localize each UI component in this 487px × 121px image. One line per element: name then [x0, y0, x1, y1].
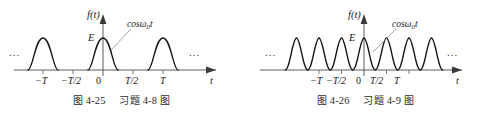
figure-right: ... ... f(t) E cosω0t −T −T/2 0 T/2 T t …	[244, 0, 487, 121]
caption-suffix: 图	[160, 95, 170, 106]
curve-label-leader	[111, 29, 131, 50]
caption-problem: 4-8	[143, 95, 158, 106]
ellipsis-left: ...	[9, 46, 20, 58]
caption-number: 4-25	[86, 95, 106, 106]
caption-suffix: 图	[404, 95, 414, 106]
y-axis-label: f(t)	[348, 9, 361, 21]
caption-label: 习题	[363, 95, 383, 106]
ellipsis-left: ...	[265, 46, 276, 58]
x-tick-label-neg-T: −T	[310, 75, 324, 86]
figure-caption-right: 图 4-26 习题 4-9 图	[244, 94, 487, 108]
x-axis	[260, 67, 462, 74]
caption-number: 4-26	[330, 95, 350, 106]
x-tick-label-zero: 0	[356, 75, 361, 86]
y-axis	[361, 14, 368, 76]
figure-sheet: ... ... f(t) E cosω0t −T −T/2 0 T/2 T t …	[0, 0, 487, 121]
curve-label-leader	[373, 29, 396, 52]
ellipsis-right: ...	[189, 46, 200, 58]
x-tick-label-T: T	[160, 75, 167, 86]
x-axis	[14, 67, 216, 74]
x-tick-label-zero: 0	[96, 75, 101, 86]
x-axis-label: t	[456, 75, 459, 86]
amplitude-label: E	[87, 32, 95, 43]
x-tick-label-neg-T-over-2: −T/2	[326, 75, 346, 86]
caption-prefix: 图	[317, 95, 327, 106]
y-axis	[100, 14, 107, 76]
amplitude-label: E	[348, 32, 356, 43]
x-tick-label-T-over-2: T/2	[125, 75, 138, 86]
y-axis-label: f(t)	[87, 9, 100, 21]
figure-caption-left: 图 4-25 习题 4-8 图	[0, 94, 243, 108]
plot-full-wave-rectified-cosine: ... ... f(t) E cosω0t −T −T/2 0 T/2 T t	[244, 0, 487, 92]
figure-left: ... ... f(t) E cosω0t −T −T/2 0 T/2 T t …	[0, 0, 243, 121]
x-tick-label-T: T	[394, 75, 401, 86]
x-axis-label: t	[210, 75, 213, 86]
x-tick-label-neg-T: −T	[35, 75, 49, 86]
caption-problem: 4-9	[387, 95, 402, 106]
caption-prefix: 图	[73, 95, 83, 106]
plot-half-wave-rectified-cosine: ... ... f(t) E cosω0t −T −T/2 0 T/2 T t	[0, 0, 243, 92]
x-tick-label-T-over-2: T/2	[370, 75, 383, 86]
ellipsis-right: ...	[447, 46, 458, 58]
x-tick-label-neg-T-over-2: −T/2	[61, 75, 81, 86]
caption-label: 习题	[119, 95, 139, 106]
